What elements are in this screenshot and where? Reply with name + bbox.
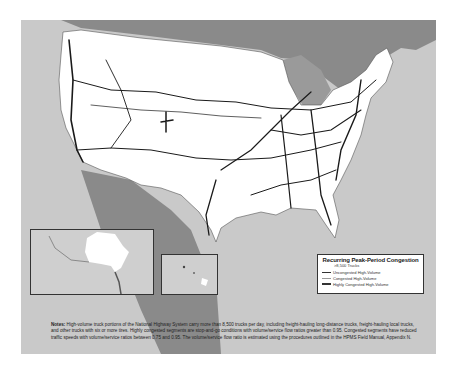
notes-label: Notes: [51,322,65,327]
alaska-shape [31,230,153,294]
line-swatch-light-icon [322,278,331,279]
legend-item-highly-congested: Highly Congested High-Volume [322,281,419,287]
hawaii-shape [162,255,217,294]
notes-text: High-volume truck portions of the Nation… [51,322,417,340]
line-swatch-thin-icon [322,272,331,273]
us-congestion-map [21,20,436,354]
line-swatch-thick-icon [322,283,331,285]
map-frame: Recurring Peak-Period Congestion >8,500 … [21,20,436,354]
map-notes: Notes: High-volume truck portions of the… [51,322,421,341]
alaska-inset [30,229,154,295]
map-legend: Recurring Peak-Period Congestion >8,500 … [317,254,424,294]
hawaii-inset [161,254,218,295]
